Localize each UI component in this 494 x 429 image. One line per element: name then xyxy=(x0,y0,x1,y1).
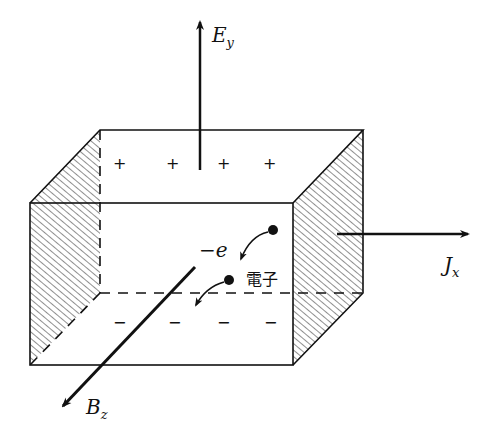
electron-upper xyxy=(241,225,278,259)
svg-text:−: − xyxy=(168,313,181,332)
hall-effect-diagram: Ey + + + + − − − − Jx Bz −e 電子 xyxy=(0,0,494,429)
positive-charges: + + + + xyxy=(113,154,276,173)
current-label: Jx xyxy=(440,253,460,280)
electric-field-label: Ey xyxy=(211,23,235,50)
charge-label: −e xyxy=(199,238,228,262)
diagram-canvas: Ey + + + + − − − − Jx Bz −e 電子 xyxy=(0,0,494,429)
left-face-hatched xyxy=(30,130,100,365)
electron-label: 電子 xyxy=(246,270,278,289)
svg-text:−: − xyxy=(113,313,126,332)
svg-text:+: + xyxy=(113,154,126,173)
svg-text:−: − xyxy=(217,313,230,332)
svg-text:+: + xyxy=(166,154,179,173)
svg-text:−: − xyxy=(264,313,277,332)
svg-text:+: + xyxy=(263,154,276,173)
electron-lower xyxy=(196,275,234,305)
magnetic-field-label: Bz xyxy=(85,395,108,422)
svg-text:+: + xyxy=(217,154,230,173)
